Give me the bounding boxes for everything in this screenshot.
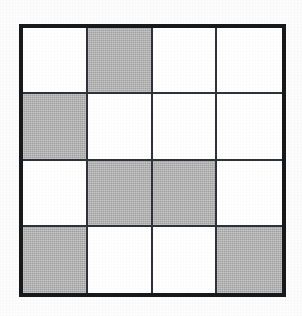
grid-cell-r2c3[interactable]: [153, 94, 218, 160]
grid-cell-r1c1[interactable]: [23, 28, 88, 94]
grid-cell-r3c2[interactable]: [88, 161, 153, 227]
grid-cell-r4c2[interactable]: [88, 227, 153, 293]
grid-cell-r4c4[interactable]: [217, 227, 282, 293]
grid-cell-r2c4[interactable]: [217, 94, 282, 160]
grid-cell-r3c4[interactable]: [217, 161, 282, 227]
grid-cell-r4c1[interactable]: [23, 227, 88, 293]
grid-cell-r1c4[interactable]: [217, 28, 282, 94]
grid-cell-r2c2[interactable]: [88, 94, 153, 160]
grid-cell-r1c2[interactable]: [88, 28, 153, 94]
grid-cell-r4c3[interactable]: [153, 227, 218, 293]
grid-cell-r3c3[interactable]: [153, 161, 218, 227]
grid-cell-r2c1[interactable]: [23, 94, 88, 160]
scanned-page-canvas: [0, 0, 302, 316]
grid-cell-r3c1[interactable]: [23, 161, 88, 227]
shaded-fraction-grid: [19, 24, 286, 297]
grid-cell-r1c3[interactable]: [153, 28, 218, 94]
